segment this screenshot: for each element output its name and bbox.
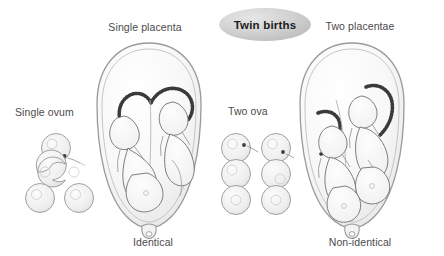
fetus-right xyxy=(159,102,194,186)
title-badge: Twin births xyxy=(219,8,311,41)
cell-stage-single-ovum xyxy=(42,134,86,167)
cell-stage-dividing-ovum xyxy=(36,150,79,187)
fetal-body-lower xyxy=(126,173,163,212)
fetus-upper-right xyxy=(349,96,390,204)
single-ovum-cell-diagram xyxy=(26,134,94,213)
uterus-inner-lining xyxy=(305,49,399,222)
cell-stage-two-zygotes xyxy=(222,160,291,189)
figure-title: Twin births xyxy=(219,8,311,41)
label-single-ovum: Single ovum xyxy=(15,106,74,118)
single-placenta-shape xyxy=(119,88,192,149)
uterus-outer-wall xyxy=(97,43,201,228)
twin-births-figure: Twin births Single placenta Two placenta… xyxy=(0,0,444,256)
dividing-membrane xyxy=(336,100,346,205)
uterus-identical-twins xyxy=(97,43,201,239)
uterus-outer-wall xyxy=(300,43,404,228)
cell-stage-two-embryos xyxy=(222,186,291,215)
fetus-left xyxy=(110,116,157,201)
uterus-non-identical-twins xyxy=(300,43,404,239)
fetus-lower-left xyxy=(318,126,360,222)
uterus-inner-lining xyxy=(102,49,196,222)
cell-stage-two-separate-cells xyxy=(26,184,94,213)
label-identical: Identical xyxy=(133,236,173,248)
cell-stage-two-ova-fertilised xyxy=(222,134,295,163)
dividing-membrane xyxy=(148,100,151,205)
label-two-placentae: Two placentae xyxy=(325,20,394,32)
label-non-identical: Non-identical xyxy=(329,236,392,248)
placenta-upper xyxy=(366,85,392,136)
label-two-ova: Two ova xyxy=(228,105,268,117)
two-ova-cell-diagram xyxy=(222,134,295,215)
label-single-placenta: Single placenta xyxy=(108,21,181,33)
placenta-lower xyxy=(318,111,340,154)
